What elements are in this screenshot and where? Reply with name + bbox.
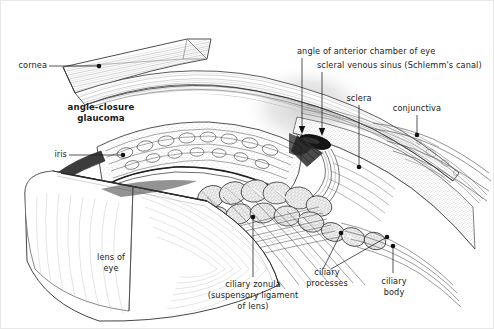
label-cornea: cornea bbox=[5, 60, 47, 71]
label-ciliary-body-line2: body bbox=[367, 287, 421, 298]
label-ciliary-processes-line2: processes bbox=[291, 278, 363, 289]
label-iris: iris bbox=[27, 149, 67, 160]
anatomy-figure: cornea angle-closure glaucoma iris angle… bbox=[0, 0, 494, 329]
label-ciliary-zonula-line2: (suspensory ligament bbox=[181, 290, 325, 301]
label-conjunctiva: conjunctiva bbox=[387, 103, 447, 114]
label-angle-of-anterior-chamber: angle of anterior chamber of eye bbox=[297, 46, 435, 57]
label-angle-closure-glaucoma-line2: glaucoma bbox=[41, 113, 161, 125]
label-ciliary-processes-line1: ciliary bbox=[297, 267, 357, 278]
label-angle-closure-glaucoma-line1: angle-closure bbox=[41, 102, 161, 114]
label-ciliary-body-line1: ciliary bbox=[367, 276, 421, 287]
label-lens-of-eye-line1: lens of bbox=[81, 252, 141, 263]
label-ciliary-zonula-line3: of lens) bbox=[193, 301, 313, 312]
label-sclera: sclera bbox=[337, 93, 381, 104]
label-lens-of-eye-line2: eye bbox=[81, 263, 141, 274]
label-scleral-venous-sinus: scleral venous sinus (Schlemm's canal) bbox=[317, 60, 482, 71]
